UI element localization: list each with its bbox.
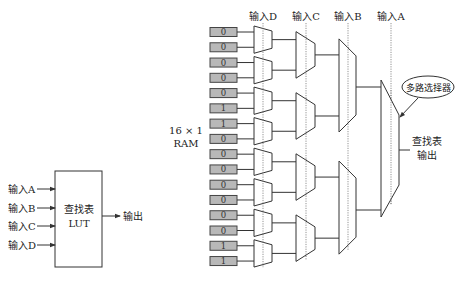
lut-title-line1: 查找表: [64, 203, 94, 215]
ram-cell: 0: [210, 164, 254, 174]
ram-cell: 1: [210, 103, 254, 113]
mux-stage-b: [315, 39, 356, 254]
mux-d: [254, 179, 272, 206]
select-label-d: 输入D: [249, 10, 277, 22]
select-label-b: 输入B: [334, 10, 361, 22]
mux-c: [296, 215, 315, 262]
ram-cell-value: 0: [221, 210, 226, 220]
input-a-label: 输入A: [8, 183, 36, 195]
input-d-label: 输入D: [8, 239, 36, 251]
select-label-a: 输入A: [377, 10, 405, 22]
ram-cell-value: 0: [221, 73, 226, 83]
mux-c: [296, 154, 315, 201]
ram-cell-value: 0: [221, 58, 226, 68]
ram-cell: 0: [210, 88, 254, 98]
lut-diagram: 查找表 LUT 输入A 输入B 输入C 输入D 输出 输入D 输入C 输入B 输…: [0, 0, 472, 281]
final-mux: [381, 80, 399, 217]
mux-d: [254, 87, 272, 114]
ram-cell: 0: [210, 42, 254, 52]
ram-cell-value: 1: [221, 256, 226, 266]
ram-cell: 0: [210, 195, 254, 205]
callout-arrow: [400, 98, 418, 117]
ram-cell-value: 0: [221, 134, 226, 144]
mux-d: [254, 240, 272, 267]
ram-cell: 0: [210, 58, 254, 68]
mux-d: [254, 118, 272, 145]
mux-b: [339, 161, 356, 254]
ram-cell-value: 0: [221, 180, 226, 190]
lut-output-label: 输出: [123, 210, 143, 222]
mux-d: [254, 26, 272, 53]
ram-cell: 0: [210, 27, 254, 37]
ram-cell-value: 0: [221, 27, 226, 37]
ram-cell: 0: [210, 180, 254, 190]
ram-cell: 1: [210, 256, 254, 266]
lut-title-line2: LUT: [68, 218, 90, 229]
mux-callout: 多路选择器: [400, 76, 454, 117]
callout-label: 多路选择器: [406, 82, 451, 93]
ram-cell: 0: [210, 226, 254, 236]
lut-input-d: 输入D: [8, 239, 55, 251]
lut-input-c: 输入C: [8, 220, 55, 232]
ram-cell: 1: [210, 119, 254, 129]
ram-cell: 0: [210, 134, 254, 144]
lut-block: 查找表 LUT 输入A 输入B 输入C 输入D 输出: [8, 171, 143, 267]
input-b-label: 输入B: [8, 202, 35, 214]
lut-output-line2: 输出: [417, 149, 437, 161]
lut-output-line1: 查找表: [412, 135, 442, 147]
ram-cells: 0000011000000011: [210, 27, 254, 266]
mux-stage-c: [272, 32, 315, 262]
mux-b: [339, 39, 356, 132]
ram-cell-value: 0: [221, 195, 226, 205]
mux-stage-a: [356, 80, 410, 217]
ram-cell-value: 1: [221, 119, 226, 129]
ram-cell-value: 0: [221, 42, 226, 52]
ram-cell-value: 1: [221, 103, 226, 113]
lut-input-a: 输入A: [8, 183, 55, 195]
ram-cell: 0: [210, 149, 254, 159]
ram-cell-value: 0: [221, 226, 226, 236]
ram-cell: 0: [210, 73, 254, 83]
ram-label-line1: 16 × 1: [169, 125, 203, 136]
mux-d: [254, 209, 272, 236]
ram-cell: 1: [210, 241, 254, 251]
mux-d: [254, 148, 272, 175]
mux-c: [296, 93, 315, 140]
lut-implementation: 输入D 输入C 输入B 输入A 16 × 1 RAM 0000011000000…: [169, 10, 454, 268]
lut-input-b: 输入B: [8, 202, 55, 214]
ram-label-line2: RAM: [174, 138, 199, 149]
ram-cell-value: 0: [221, 88, 226, 98]
ram-cell: 0: [210, 210, 254, 220]
mux-c: [296, 32, 315, 79]
ram-cell-value: 0: [221, 149, 226, 159]
input-c-label: 输入C: [8, 220, 36, 232]
mux-d: [254, 57, 272, 84]
ram-cell-value: 0: [221, 164, 226, 174]
ram-cell-value: 1: [221, 241, 226, 251]
select-label-c: 输入C: [292, 10, 320, 22]
